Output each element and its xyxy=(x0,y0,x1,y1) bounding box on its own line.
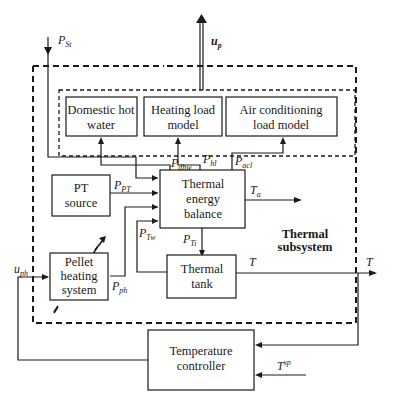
t-tank-label: T xyxy=(249,255,257,269)
air-conditioning-label: Air conditioning xyxy=(240,103,324,117)
svg-text:Heating load: Heating load xyxy=(151,103,216,117)
t-out-label: T xyxy=(366,255,374,269)
temperature-controller-label: Temperature xyxy=(170,344,233,358)
p-acl-label: Pacl xyxy=(234,154,253,170)
p-tw-label: PTw xyxy=(138,226,156,242)
t-a-label: Ta xyxy=(250,183,261,199)
thermal-tank-label: Thermal xyxy=(181,262,224,276)
heating-load-model-label: Heating load xyxy=(151,103,216,117)
svg-text:controller: controller xyxy=(177,359,226,373)
svg-text:source: source xyxy=(65,196,98,210)
p-ti-label: PTi xyxy=(182,232,197,248)
u-ph-label: uph xyxy=(14,262,28,278)
p-hl-label: Phl xyxy=(202,152,217,168)
p-pt-label: PPT xyxy=(113,178,131,194)
down-arrow-icon xyxy=(44,47,52,55)
domestic-hot-water-label: Domestic hot xyxy=(67,103,135,117)
p-st-label: PSt xyxy=(57,33,72,49)
u-p-label: up xyxy=(211,34,222,50)
thermal-subsystem-diagram: Domestic hot water Heating load model Ai… xyxy=(0,0,394,407)
p-ph-label: Pph xyxy=(111,279,127,295)
svg-text:Thermal: Thermal xyxy=(181,262,224,276)
svg-text:Air conditioning: Air conditioning xyxy=(240,103,324,117)
svg-text:Domestic hot: Domestic hot xyxy=(67,103,135,117)
svg-text:PT: PT xyxy=(74,181,89,195)
svg-text:model: model xyxy=(167,118,199,132)
svg-text:balance: balance xyxy=(184,207,223,221)
svg-text:Temperature: Temperature xyxy=(170,344,233,358)
svg-text:water: water xyxy=(87,118,116,132)
svg-text:energy: energy xyxy=(186,192,221,206)
t-sp-label: Tsp xyxy=(277,358,291,373)
svg-text:heating: heating xyxy=(61,269,99,283)
pt-source-label: PT xyxy=(74,181,89,195)
thermal-energy-balance-label: Thermal xyxy=(182,177,225,191)
pellet-heating-label: Pellet xyxy=(65,255,94,269)
svg-text:subsystem: subsystem xyxy=(278,240,333,254)
svg-text:system: system xyxy=(62,283,97,297)
thermal-subsystem-label: Thermal xyxy=(282,227,329,241)
up-arrow-icon xyxy=(196,14,207,23)
p-dhw-label: Pdhw xyxy=(170,156,192,172)
svg-text:Thermal: Thermal xyxy=(182,177,225,191)
svg-text:load model: load model xyxy=(253,118,309,132)
svg-text:tank: tank xyxy=(191,277,213,291)
svg-text:Pellet: Pellet xyxy=(65,255,94,269)
